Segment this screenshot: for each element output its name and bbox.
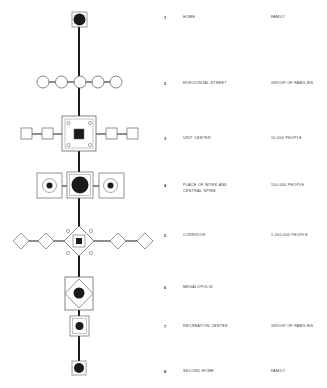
level-label: MEGALOPOLIS <box>183 285 213 291</box>
level-number: 2 <box>164 81 167 86</box>
level-number: 1 <box>164 15 167 20</box>
corridor-symbol <box>13 226 153 256</box>
level-label: UNIT CENTER <box>183 136 211 142</box>
level-population: FAMILY <box>271 15 286 19</box>
level-label: HOME <box>183 15 195 21</box>
level-population: FAMILY <box>271 369 286 373</box>
level-population: 100,000 PEOPLE <box>271 183 304 187</box>
place-of-work-symbol <box>37 172 124 198</box>
horizontal-street-symbol <box>37 76 122 88</box>
unit-center-symbol <box>21 116 138 151</box>
hierarchy-diagram <box>0 0 160 388</box>
level-label: SECOND HOME <box>183 369 214 375</box>
level-number: 4 <box>164 183 167 188</box>
recreation-center-symbol <box>70 316 89 336</box>
level-label: CORRIDOR <box>183 233 205 239</box>
level-number: 3 <box>164 136 167 141</box>
megalopolis-symbol <box>65 277 93 310</box>
level-number: 5 <box>164 233 167 238</box>
home-symbol <box>72 12 87 27</box>
level-population: 10,000 PEOPLE <box>271 136 302 140</box>
level-population: GROUP OF FAMILIES <box>271 81 313 85</box>
level-label-line2: CENTRAL SPINE <box>183 189 216 193</box>
second-home-symbol <box>72 361 86 375</box>
level-number: 6 <box>164 285 167 290</box>
level-label: RECREATION CENTER <box>183 324 228 330</box>
level-number: 7 <box>164 324 167 329</box>
level-population: GROUP OF FAMILIES <box>271 324 313 328</box>
level-number: 8 <box>164 369 167 374</box>
level-label: HORIZONTAL STREET <box>183 81 227 87</box>
level-population: 1,000,000 PEOPLE <box>271 233 308 237</box>
level-label: PLACE OF WORK AND CENTRAL SPINE <box>183 183 227 194</box>
level-label-line1: PLACE OF WORK AND <box>183 183 227 187</box>
